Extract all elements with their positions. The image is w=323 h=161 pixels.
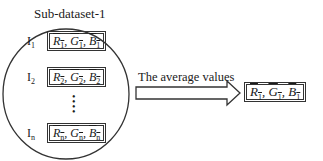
mean-rgb-box-n: Rn, Gn, Bn bbox=[47, 123, 106, 143]
vertical-ellipsis: •••• bbox=[72, 94, 76, 114]
mean-rgb-values-2: R2, G2, B2 bbox=[49, 69, 104, 85]
average-rgb-result-values: R1, G1, B1 bbox=[246, 84, 304, 100]
mean-rgb-box-2: R2, G2, B2 bbox=[47, 67, 106, 87]
image-index-1: I1 bbox=[27, 34, 35, 50]
mean-rgb-box-1: R1, G1, B1 bbox=[47, 31, 106, 51]
image-index-2: I2 bbox=[27, 70, 35, 86]
arrow-label: The average values bbox=[138, 70, 234, 85]
mean-rgb-values-n: Rn, Gn, Bn bbox=[49, 125, 104, 141]
mean-rgb-values-1: R1, G1, B1 bbox=[49, 33, 104, 49]
average-rgb-result-box: R1, G1, B1 bbox=[244, 82, 306, 102]
image-index-n: In bbox=[27, 126, 35, 142]
